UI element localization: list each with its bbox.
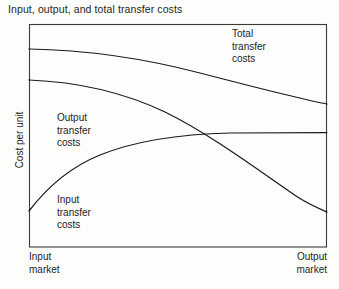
x-axis-tick-input-market: Input market	[29, 251, 60, 276]
curve-total-transfer-costs	[29, 49, 327, 104]
curve-label-output-transfer-costs: Output transfer costs	[57, 112, 91, 150]
curve-label-input-line1: Input	[57, 194, 91, 207]
x-axis-tick-output-market-line2: market	[296, 264, 327, 277]
y-axis-label: Cost per unit	[14, 112, 26, 169]
figure: Input, output, and total transfer costs …	[0, 0, 339, 289]
curve-label-output-line1: Output	[57, 112, 91, 125]
curve-label-output-line3: costs	[57, 137, 91, 150]
plot-area	[0, 0, 339, 289]
curve-label-total-transfer-costs: Total transfer costs	[232, 28, 266, 66]
curve-label-total-line2: transfer	[232, 41, 266, 54]
x-axis-tick-input-market-line1: Input	[29, 251, 60, 264]
x-axis-tick-output-market-line1: Output	[296, 251, 327, 264]
x-axis-tick-output-market: Output market	[296, 251, 327, 276]
curve-label-input-line3: costs	[57, 219, 91, 232]
curve-label-output-line2: transfer	[57, 125, 91, 138]
curve-label-input-line2: transfer	[57, 207, 91, 220]
curve-label-total-line3: costs	[232, 53, 266, 66]
curve-label-total-line1: Total	[232, 28, 266, 41]
curve-label-input-transfer-costs: Input transfer costs	[57, 194, 91, 232]
x-axis-tick-input-market-line2: market	[29, 264, 60, 277]
